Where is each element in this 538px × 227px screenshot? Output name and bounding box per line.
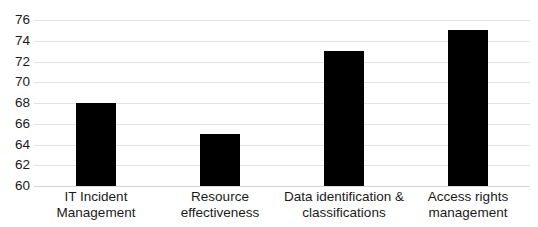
x-axis-tick-label-line: Data identification &: [282, 189, 406, 205]
x-axis-tick-label-line: Resource: [158, 189, 282, 205]
x-axis-tick-label: Access rightsmanagement: [406, 189, 530, 221]
x-axis-tick-label-line: management: [406, 205, 530, 221]
x-axis-tick-label-line: IT Incident: [34, 189, 158, 205]
x-axis-tick-label: Data identification &classifications: [282, 189, 406, 221]
y-axis: 606264666870727476: [0, 20, 30, 186]
y-axis-tick-label: 74: [2, 34, 30, 48]
bar: [76, 103, 116, 186]
x-axis-tick-label-line: Access rights: [406, 189, 530, 205]
x-axis-tick-label: Resourceeffectiveness: [158, 189, 282, 221]
bar: [200, 134, 240, 186]
x-axis-tick-label-line: Management: [34, 205, 158, 221]
x-axis: IT IncidentManagementResourceeffectivene…: [34, 189, 530, 227]
y-axis-tick-label: 62: [2, 159, 30, 173]
bar: [448, 30, 488, 186]
y-axis-tick-label: 66: [2, 117, 30, 131]
y-axis-tick-label: 72: [2, 55, 30, 69]
y-axis-tick-label: 60: [2, 179, 30, 193]
plot-area: [34, 20, 530, 186]
x-axis-tick-label: IT IncidentManagement: [34, 189, 158, 221]
x-axis-tick-label-line: classifications: [282, 205, 406, 221]
y-axis-tick-label: 64: [2, 138, 30, 152]
y-axis-tick-label: 68: [2, 96, 30, 110]
y-axis-tick-label: 76: [2, 13, 30, 27]
bar-chart: 606264666870727476 IT IncidentManagement…: [0, 0, 538, 227]
gridline: [34, 186, 530, 187]
x-axis-tick-label-line: effectiveness: [158, 205, 282, 221]
bar: [324, 51, 364, 186]
gridline: [34, 20, 530, 21]
y-axis-tick-label: 70: [2, 76, 30, 90]
